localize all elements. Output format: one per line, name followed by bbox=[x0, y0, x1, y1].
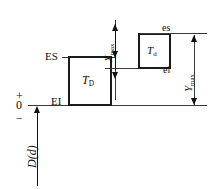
hole-lower-deviation-label: EI bbox=[51, 96, 61, 107]
x-max-arrow-head-upper bbox=[112, 24, 118, 31]
x-max-dimension-label: Xmax bbox=[103, 44, 114, 62]
hole-tolerance-symbol: T bbox=[82, 73, 89, 87]
hole-upper-deviation-label: ES bbox=[45, 51, 58, 62]
y-max-arrow-head-upper bbox=[191, 35, 197, 42]
shaft-lower-deviation-label: ei bbox=[163, 65, 170, 75]
y-max-symbol: Y bbox=[182, 86, 194, 92]
shaft-upper-deviation-line bbox=[140, 33, 207, 34]
axis-zero-label: 0 bbox=[16, 99, 22, 111]
shaft-tolerance-label: Td bbox=[147, 45, 157, 56]
y-max-subscript: max bbox=[188, 74, 195, 86]
axis-minus-label: − bbox=[16, 112, 23, 124]
x-max-symbol: X bbox=[102, 55, 114, 62]
x-max-arrow-head-bottom bbox=[112, 72, 118, 79]
shaft-lower-deviation-line bbox=[105, 68, 140, 69]
shaft-tolerance-subscript: d bbox=[153, 50, 156, 57]
deviation-arrow-head bbox=[34, 106, 40, 113]
y-max-dimension-label: Ymax bbox=[183, 74, 194, 92]
hole-tolerance-subscript: D bbox=[89, 79, 94, 88]
y-max-arrow-head-lower bbox=[191, 98, 197, 105]
hole-tolerance-label: TD bbox=[82, 74, 94, 86]
y-max-arrow-shaft bbox=[194, 35, 195, 105]
shaft-upper-deviation-label: es bbox=[162, 23, 170, 33]
tolerance-zone-diagram: + 0 − D(d) TD ES EI Td es ei Xmax Ymax bbox=[0, 0, 213, 189]
x-max-subscript: max bbox=[108, 44, 115, 56]
deviation-axis-label: D(d) bbox=[26, 145, 38, 168]
